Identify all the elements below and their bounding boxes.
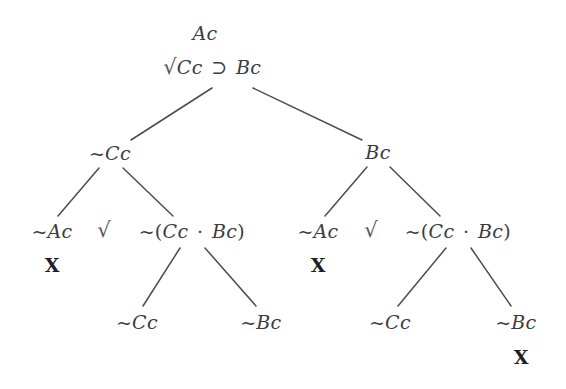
formula-node-l-leaf-bc: ~Bc xyxy=(240,313,281,332)
formula-node-r-leaf-cc: ~Cc xyxy=(369,313,411,332)
edge-lconj-to-bc xyxy=(205,248,256,306)
formula-node-r-leaf-bc: ~Bc xyxy=(495,313,536,332)
closure-mark-close-right-leaf-bc: X xyxy=(514,348,529,367)
checkmark-icon-check-right-conj: √ xyxy=(364,220,377,241)
edge-root-right xyxy=(253,88,362,140)
checkmark-icon-check-left-conj: √ xyxy=(97,220,110,241)
formula-node-left-cc: ~Cc xyxy=(89,144,131,163)
formula-node-l-leaf-cc: ~Cc xyxy=(116,313,158,332)
edge-right-to-notac xyxy=(325,167,367,216)
formula-node-r-not-ac: ~Ac xyxy=(297,222,338,241)
formula-node-r-not-conj: ~(Cc · Bc) xyxy=(405,222,511,241)
edge-right-to-conj xyxy=(390,167,440,216)
closure-mark-close-left-not-ac: X xyxy=(45,256,60,275)
edge-root-left xyxy=(131,88,212,140)
closure-mark-close-right-not-ac: X xyxy=(311,256,326,275)
edge-rconj-to-cc xyxy=(398,248,446,306)
edge-left-to-conj xyxy=(123,168,173,216)
branch-line-layer xyxy=(0,0,566,389)
formula-node-right-bc: Bc xyxy=(365,143,390,162)
checkmark-icon-check-conditional: √ xyxy=(163,57,176,78)
formula-node-premise: Ac xyxy=(192,24,217,43)
edge-rconj-to-bc xyxy=(471,248,511,306)
edge-left-to-notac xyxy=(58,168,99,216)
formula-node-l-not-conj: ~(Cc · Bc) xyxy=(139,222,245,241)
formula-node-conditional: Cc ⊃ Bc xyxy=(177,58,262,77)
edge-lconj-to-cc xyxy=(143,248,180,306)
formula-node-l-not-ac: ~Ac xyxy=(31,222,72,241)
truth-tree-figure: AcCc ⊃ Bc~CcBc~Ac~(Cc · Bc)~Ac~(Cc · Bc)… xyxy=(0,0,566,389)
